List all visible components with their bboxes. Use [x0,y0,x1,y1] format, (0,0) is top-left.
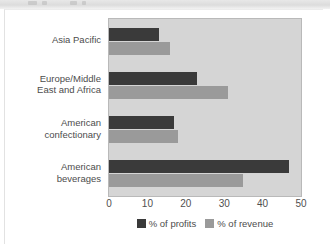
legend-item[interactable]: % of revenue [205,218,273,229]
category-label-line: American [9,117,101,129]
category-label-line: confectionary [9,129,101,141]
bar-revenue [109,130,178,143]
legend-item[interactable]: % of profits [137,218,197,229]
x-tick-label: 50 [286,198,316,209]
category-label-line: beverages [9,173,101,185]
legend-swatch-icon [137,219,146,228]
x-tick-label: 30 [209,198,239,209]
x-tick-label: 40 [248,198,278,209]
scan-smudge [42,1,47,5]
chart-page: Asia PacificEurope/MiddleEast and Africa… [0,0,330,247]
category-label: Asia Pacific [9,34,101,46]
chart-legend: % of profits% of revenue [108,218,302,229]
scan-smudge [28,1,37,5]
scan-smudge [70,1,77,5]
bar-group [109,152,301,196]
category-axis-labels: Asia PacificEurope/MiddleEast and Africa… [9,18,105,197]
legend-swatch-icon [205,219,214,228]
bar-group [109,19,301,63]
category-label-line: Europe/Middle [9,73,101,85]
scan-smudge [82,1,86,5]
figure-card: Asia PacificEurope/MiddleEast and Africa… [4,9,323,244]
category-label-line: American [9,161,101,173]
bar-group [109,63,301,107]
legend-label: % of profits [149,218,197,229]
legend-label: % of revenue [217,218,273,229]
category-label-line: East and Africa [9,84,101,96]
bar-profits [109,160,289,173]
category-label: Europe/MiddleEast and Africa [9,73,101,96]
category-label-line: Asia Pacific [9,34,101,46]
x-tick-label: 0 [94,198,124,209]
bar-group [109,108,301,152]
bar-profits [109,72,197,85]
bar-revenue [109,86,228,99]
x-tick-label: 10 [132,198,162,209]
plot-area [108,18,302,197]
bar-profits [109,28,159,41]
x-tick-label: 20 [171,198,201,209]
category-label: Americanbeverages [9,161,101,184]
x-axis-tick-labels: 01020304050 [108,198,302,214]
bar-profits [109,116,174,129]
scan-artifact-strip [0,0,330,9]
category-label: Americanconfectionary [9,117,101,140]
bar-revenue [109,42,170,55]
bar-revenue [109,174,243,187]
